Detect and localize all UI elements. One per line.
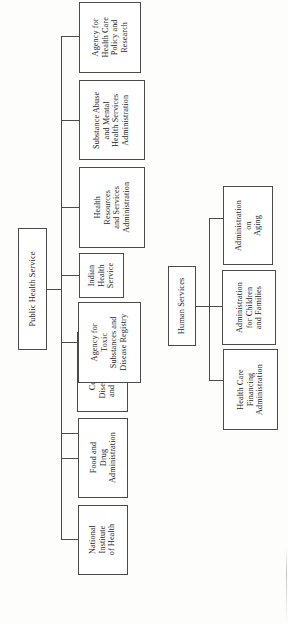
- page-edge-artifact: [286, 0, 287, 623]
- node-public-health-service: Public Health Service: [18, 228, 47, 350]
- node-label: Public Health Service: [28, 251, 38, 326]
- node-agency-for-health-care-policy-and-research: Agency for Health Care Policy and Resear…: [79, 2, 141, 73]
- node-label: National Institute of Health: [88, 524, 117, 556]
- node-administration-for-children-and-families: Administration for Children and Families: [222, 270, 276, 345]
- node-atsdr: Agency for Toxic Substances and Disease …: [78, 302, 141, 383]
- phs-stub-hrsa: [61, 207, 79, 208]
- hs-stub-aoa: [209, 218, 224, 219]
- node-label: Agency for Toxic Substances and Disease …: [90, 314, 129, 371]
- phs-trunk-line: [61, 36, 62, 539]
- hs-stub-hcfa: [209, 380, 223, 381]
- hs-root-stem: [196, 306, 210, 307]
- hs-trunk-line: [209, 218, 210, 381]
- hs-stub-acf: [209, 306, 223, 307]
- node-indian-health-service: Indian Health Service: [79, 253, 124, 298]
- phs-stub-samhsa: [61, 120, 79, 121]
- node-health-care-financing-administration: Health Care Financing Administration: [223, 349, 278, 430]
- node-national-institute-of-health: National Institute of Health: [78, 505, 128, 575]
- node-label: Agency for Health Care Policy and Resear…: [91, 17, 130, 57]
- node-substance-abuse-and-mental-health-services-administration: Substance Abuse and Mental Health Servic…: [79, 80, 145, 160]
- node-label: Human Services: [177, 278, 187, 335]
- org-chart-canvas: Public Health Service National Institute…: [0, 0, 288, 623]
- node-label: Administration on Aging: [234, 200, 263, 251]
- phs-stub-ihs: [61, 275, 79, 276]
- node-food-and-drug-administration: Food and Drug Administration: [78, 418, 128, 498]
- node-label: Indian Health Service: [87, 263, 116, 288]
- phs-stub-cdc: [61, 433, 78, 434]
- phs-root-stem: [47, 289, 62, 290]
- node-label: Health Care Financing Administration: [236, 364, 265, 415]
- node-label: Administration for Children and Families: [234, 282, 263, 333]
- node-human-services: Human Services: [168, 266, 196, 346]
- node-label: Food and Drug Administration: [89, 433, 118, 484]
- node-label: Health Resources and Services Administra…: [93, 182, 132, 233]
- node-administration-on-aging: Administration on Aging: [223, 186, 273, 265]
- node-label: Substance Abuse and Mental Health Servic…: [93, 91, 132, 148]
- phs-stub-ahcpr: [61, 36, 79, 37]
- phs-stub-fda: [61, 458, 78, 459]
- phs-stub-atsdr: [61, 342, 78, 343]
- phs-stub-nih: [61, 539, 78, 540]
- node-health-resources-and-services-administration: Health Resources and Services Administra…: [79, 167, 145, 248]
